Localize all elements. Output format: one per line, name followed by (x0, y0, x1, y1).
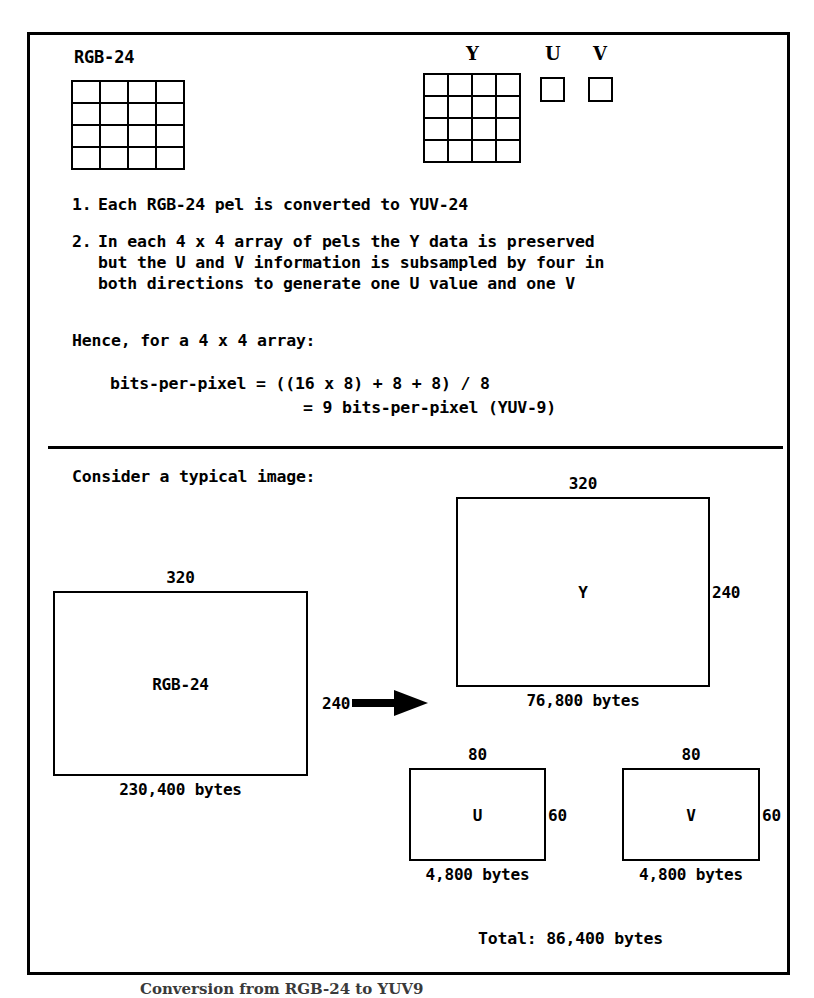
step-text: Each RGB-24 pel is converted to YUV-24 (98, 194, 772, 215)
rgb-source-box: 320 RGB-24 230,400 bytes (53, 591, 308, 776)
step-line: both directions to generate one U value … (98, 273, 772, 294)
u-plane-box: 80 U 60 4,800 bytes (409, 768, 546, 861)
y-plane-label: Y (458, 583, 708, 602)
step-line: In each 4 x 4 array of pels the Y data i… (98, 231, 772, 252)
pel-cell (473, 97, 497, 119)
pel-cell (497, 141, 521, 163)
pel-cell (425, 119, 449, 141)
right-arrow-icon (352, 688, 428, 718)
step-number: 2. (72, 231, 98, 252)
y-plane-box: 320 Y 240 76,800 bytes (456, 497, 710, 687)
conversion-steps-list: 1. Each RGB-24 pel is converted to YUV-2… (72, 194, 772, 310)
pel-cell (129, 82, 157, 104)
step-line: Each RGB-24 pel is converted to YUV-24 (98, 194, 772, 215)
pel-cell (73, 104, 101, 126)
u-pel-cell (540, 77, 565, 102)
y-pel-grid (423, 73, 521, 163)
pel-cell (449, 75, 473, 97)
pel-cell (497, 97, 521, 119)
pel-cell (425, 75, 449, 97)
pel-cell (101, 148, 129, 170)
pel-cell (449, 119, 473, 141)
y-plane-width-label: 320 (458, 474, 708, 493)
list-item: 2. In each 4 x 4 array of pels the Y dat… (72, 231, 772, 294)
pel-cell (129, 104, 157, 126)
pel-cell (101, 104, 129, 126)
rgb-source-label: RGB-24 (55, 674, 306, 693)
figure-frame: RGB-24 Y U V 1. Each RGB-24 pel is conve… (27, 32, 790, 975)
rgb-source-height-label: 240 (322, 694, 350, 713)
rgb-pel-grid-label: RGB-24 (74, 47, 134, 67)
v-plane-height-label: 60 (762, 805, 781, 824)
pel-cell (73, 82, 101, 104)
v-plane-width-label: 80 (624, 745, 758, 764)
pel-cell (473, 119, 497, 141)
pel-cell (473, 141, 497, 163)
formula-line-1: bits-per-pixel = ((16 x 8) + 8 + 8) / 8 (110, 372, 556, 396)
example-heading: Consider a typical image: (72, 467, 315, 486)
bits-per-pixel-formula: bits-per-pixel = ((16 x 8) + 8 + 8) / 8 … (110, 372, 556, 420)
step-text: In each 4 x 4 array of pels the Y data i… (98, 231, 772, 294)
total-bytes-line: Total: 86,400 bytes (478, 929, 663, 948)
step-number: 1. (72, 194, 98, 215)
pel-cell (497, 75, 521, 97)
pel-cell (449, 141, 473, 163)
u-plane-bytes: 4,800 bytes (411, 865, 544, 884)
pel-cell (157, 104, 185, 126)
pel-conversion-diagram: RGB-24 Y U V (30, 35, 787, 185)
y-plane-bytes: 76,800 bytes (458, 691, 708, 710)
rgb-pel-grid (71, 80, 185, 170)
pel-cell (425, 141, 449, 163)
u-plane-width-label: 80 (411, 745, 544, 764)
pel-cell (101, 126, 129, 148)
pel-cell (73, 148, 101, 170)
y-pel-grid-label: Y (466, 43, 479, 64)
pel-cell (449, 97, 473, 119)
pel-cell (101, 82, 129, 104)
pel-cell (157, 126, 185, 148)
pel-cell (157, 82, 185, 104)
hence-heading: Hence, for a 4 x 4 array: (72, 331, 315, 350)
v-plane-label: V (624, 805, 758, 824)
pel-cell (129, 148, 157, 170)
pel-cell (73, 126, 101, 148)
formula-line-2: = 9 bits-per-pixel (YUV-9) (110, 396, 556, 420)
pel-cell (473, 75, 497, 97)
u-plane-height-label: 60 (548, 805, 567, 824)
pel-cell (425, 97, 449, 119)
y-plane-height-label: 240 (712, 583, 740, 602)
pel-cell (157, 148, 185, 170)
section-divider (48, 446, 783, 449)
figure-caption: Conversion from RGB-24 to YUV9 (140, 980, 423, 998)
rgb-source-width-label: 320 (55, 568, 306, 587)
v-plane-box: 80 V 60 4,800 bytes (622, 768, 760, 861)
step-line: but the U and V information is subsample… (98, 252, 772, 273)
u-plane-label: U (411, 805, 544, 824)
v-plane-bytes: 4,800 bytes (624, 865, 758, 884)
v-pel-grid-label: V (593, 43, 607, 64)
pel-cell (129, 126, 157, 148)
v-pel-cell (588, 77, 613, 102)
u-pel-grid-label: U (545, 43, 561, 64)
list-item: 1. Each RGB-24 pel is converted to YUV-2… (72, 194, 772, 215)
conversion-arrow-group: 240 (322, 688, 428, 718)
rgb-source-bytes: 230,400 bytes (55, 780, 306, 799)
pel-cell (497, 119, 521, 141)
